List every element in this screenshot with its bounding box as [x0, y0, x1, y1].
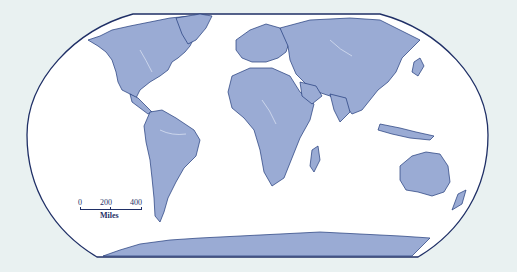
scale-tick [110, 207, 111, 210]
scale-tick-label: 200 [100, 198, 112, 207]
scale-tick [141, 207, 142, 210]
scale-tick [80, 207, 81, 210]
world-map [0, 0, 517, 272]
scale-bar: 0 200 400 Miles [78, 198, 148, 228]
scale-tick-label: 400 [130, 198, 142, 207]
scale-unit: Miles [100, 211, 119, 220]
scale-tick-label: 0 [78, 198, 82, 207]
scale-line [80, 209, 142, 210]
